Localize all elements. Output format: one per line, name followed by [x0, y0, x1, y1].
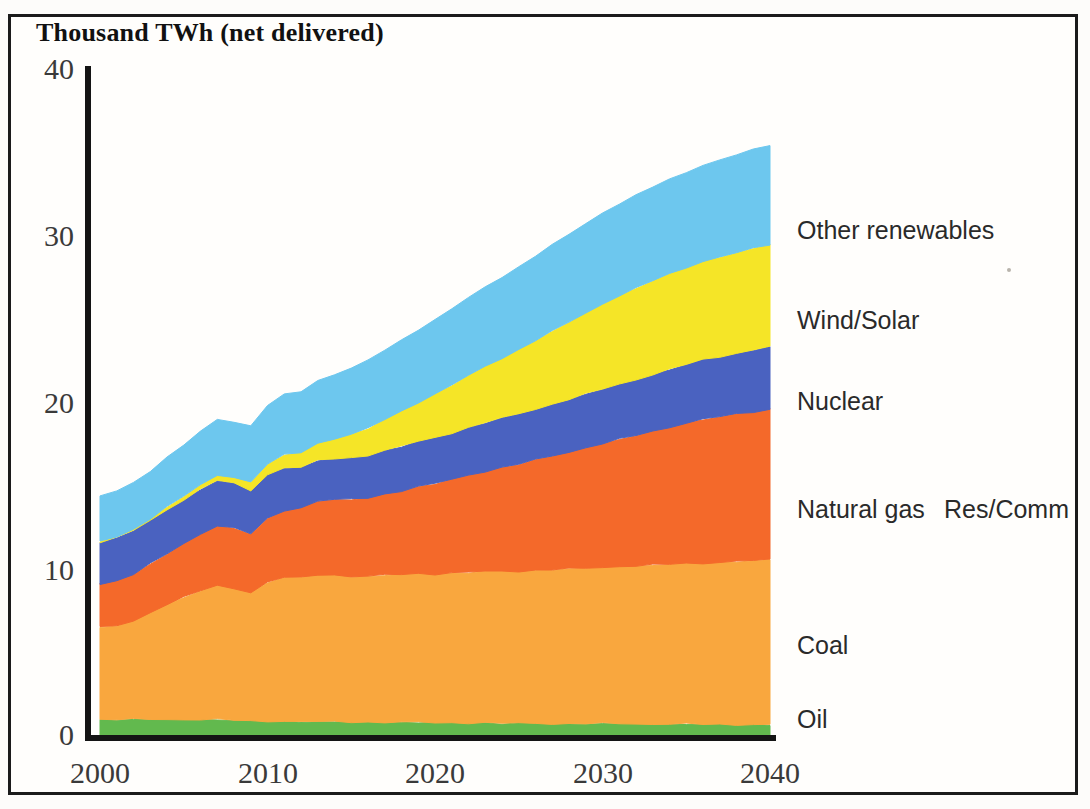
legend-label-nuclear: Nuclear	[797, 387, 883, 416]
x-axis-line	[85, 735, 776, 741]
legend-label-natural-gas: Natural gas	[797, 495, 925, 524]
chart-page: Thousand TWh (net delivered) 40 30 20 10…	[0, 0, 1090, 809]
legend-label-wind-solar: Wind/Solar	[797, 306, 919, 335]
plot-area: 40 30 20 10 0 2000 2010 2020 2030 2040 O…	[0, 0, 1090, 809]
y-tick-40: 40	[4, 52, 74, 86]
legend-label-other-renewables: Other renewables	[797, 216, 994, 245]
y-tick-0: 0	[4, 718, 74, 752]
stacked-area-svg	[0, 0, 1090, 809]
x-tick-2010: 2010	[203, 756, 333, 790]
y-tick-20: 20	[4, 386, 74, 420]
x-tick-2030: 2030	[538, 756, 668, 790]
y-tick-10: 10	[4, 553, 74, 587]
y-axis-line	[85, 66, 91, 741]
y-tick-30: 30	[4, 219, 74, 253]
x-tick-2040: 2040	[705, 756, 835, 790]
x-tick-2020: 2020	[370, 756, 500, 790]
x-tick-2000: 2000	[35, 756, 165, 790]
legend-label-coal: Coal	[797, 631, 848, 660]
legend-label-oil: Oil	[797, 705, 828, 734]
scan-speck	[1007, 268, 1011, 272]
legend-label-res-comm: Res/Comm	[944, 495, 1069, 524]
